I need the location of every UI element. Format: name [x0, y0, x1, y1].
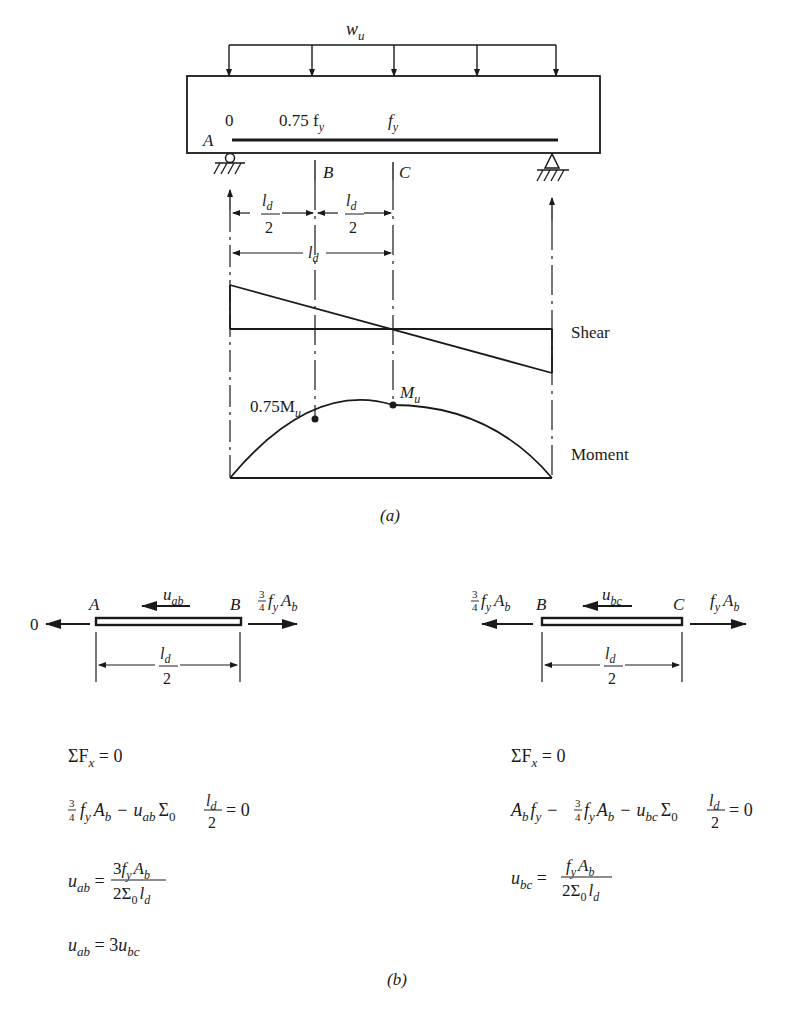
svg-text:fyAb−ubcΣ0: fyAb−ubcΣ0 — [584, 800, 678, 824]
moment-diagram: 0.75Mu Mu Moment — [230, 383, 629, 478]
svg-text:uab: uab — [163, 585, 184, 608]
equation-bc-balance: Abfy− — [510, 800, 557, 824]
svg-text:fyAb: fyAb — [710, 591, 739, 614]
svg-text:A: A — [88, 595, 100, 614]
shear-diagram: Shear — [230, 285, 610, 373]
svg-text:ld: ld — [308, 244, 319, 265]
svg-text:B: B — [230, 595, 241, 614]
right-equations: ΣFx = 0 Abfy− 3 4 fyAb−ubcΣ0 ld 2 = 0 ub… — [510, 746, 753, 904]
svg-text:B: B — [536, 595, 547, 614]
svg-text:3: 3 — [575, 797, 581, 809]
roller-support-icon — [214, 154, 245, 175]
svg-text:ubc: ubc — [602, 585, 623, 608]
equation-sum-fx-right: ΣFx = 0 — [511, 746, 565, 770]
svg-text:2: 2 — [711, 814, 719, 831]
pin-support-icon — [537, 154, 569, 181]
svg-text:2: 2 — [265, 219, 273, 236]
moment-mu-label: Mu — [399, 383, 420, 406]
shear-label: Shear — [571, 323, 610, 342]
svg-text:2: 2 — [163, 670, 171, 687]
distributed-load: wu — [229, 19, 556, 76]
point-b-label: B — [323, 163, 334, 182]
free-body-bc: 3 4 fyAb B C ubc fyAb ld 2 — [471, 585, 746, 687]
stress-label-0: 0 — [225, 111, 234, 130]
svg-text:ld: ld — [605, 645, 616, 666]
svg-text:3: 3 — [259, 588, 265, 600]
svg-text:fyAb: fyAb — [268, 591, 297, 614]
svg-text:3: 3 — [69, 797, 75, 809]
equation-uab: uab = — [68, 871, 105, 895]
svg-text:fyAb: fyAb — [481, 591, 510, 614]
moment-label: Moment — [571, 445, 629, 464]
equation-sum-fx-left: ΣFx = 0 — [68, 746, 122, 770]
svg-text:4: 4 — [472, 601, 478, 613]
svg-text:4: 4 — [69, 811, 75, 823]
svg-text:4: 4 — [259, 601, 265, 613]
svg-text:2: 2 — [608, 670, 616, 687]
dimension-full: ld — [233, 244, 391, 265]
figure-b: 0 A B uab 3 4 fyAb ld 2 3 — [30, 585, 753, 989]
svg-text:4: 4 — [575, 811, 581, 823]
dimension-half-left: ld 2 — [233, 192, 313, 236]
svg-text:2: 2 — [208, 814, 216, 831]
moment-075mu-label: 0.75Mu — [250, 397, 301, 420]
point-a-label: A — [202, 131, 214, 150]
svg-text:3: 3 — [472, 588, 478, 600]
caption-a: (a) — [380, 506, 400, 525]
stress-label-fy: fy — [388, 111, 399, 134]
load-label: wu — [346, 19, 365, 43]
svg-text:2Σ0ld: 2Σ0ld — [113, 884, 151, 907]
equation-uab-ratio: uab = 3ubc — [68, 935, 140, 959]
bond-stress-diagram: wu 0 0.75 fy fy A B C — [0, 0, 788, 1023]
left-equations: ΣFx = 0 3 4 fyAb−uabΣ0 ld 2 = 0 uab = 3f… — [68, 746, 250, 959]
svg-text:C: C — [673, 595, 685, 614]
svg-text:ld: ld — [160, 645, 171, 666]
svg-text:2Σ0ld: 2Σ0ld — [562, 881, 600, 904]
point-c-label: C — [399, 163, 411, 182]
caption-b: (b) — [387, 970, 407, 989]
svg-text:fyAb: fyAb — [566, 856, 594, 879]
free-body-ab: 0 A B uab 3 4 fyAb ld 2 — [30, 585, 297, 687]
dimension-half-right: ld 2 — [318, 192, 391, 236]
svg-text:0: 0 — [30, 615, 39, 634]
svg-text:= 0: = 0 — [226, 800, 250, 820]
stress-label-075fy: 0.75 fy — [279, 111, 325, 134]
svg-text:ld: ld — [262, 192, 273, 213]
equation-ubc: ubc = — [511, 868, 547, 892]
svg-text:3fyAb: 3fyAb — [113, 859, 150, 882]
figure-a: wu 0 0.75 fy fy A B C — [187, 19, 629, 525]
svg-text:= 0: = 0 — [729, 800, 753, 820]
svg-text:ld: ld — [346, 192, 357, 213]
svg-text:2: 2 — [349, 219, 357, 236]
equation-ab-balance: fyAb−uabΣ0 — [80, 800, 175, 824]
